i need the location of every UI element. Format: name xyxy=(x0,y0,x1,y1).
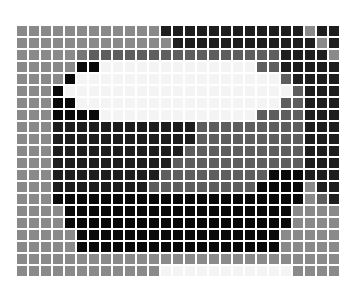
mosaic-cell xyxy=(209,242,219,252)
mosaic-cell xyxy=(29,182,39,192)
mosaic-cell xyxy=(89,134,99,144)
mosaic-cell xyxy=(221,242,231,252)
mosaic-cell xyxy=(65,98,75,108)
mosaic-cell xyxy=(29,98,39,108)
mosaic-cell xyxy=(113,182,123,192)
mosaic-cell xyxy=(209,110,219,120)
mosaic-cell xyxy=(329,170,339,180)
mosaic-cell xyxy=(185,254,195,264)
mosaic-cell xyxy=(305,62,315,72)
mosaic-cell xyxy=(17,62,27,72)
mosaic-cell xyxy=(113,38,123,48)
mosaic-cell xyxy=(281,158,291,168)
mosaic-cell xyxy=(113,230,123,240)
mosaic-cell xyxy=(161,170,171,180)
mosaic-cell xyxy=(233,26,243,36)
mosaic-cell xyxy=(305,74,315,84)
mosaic-cell xyxy=(257,266,267,276)
mosaic-cell xyxy=(293,194,303,204)
mosaic-cell xyxy=(329,62,339,72)
mosaic-cell xyxy=(173,110,183,120)
mosaic-cell xyxy=(89,50,99,60)
mosaic-cell xyxy=(89,170,99,180)
mosaic-cell xyxy=(149,158,159,168)
mosaic-cell xyxy=(41,62,51,72)
mosaic-cell xyxy=(65,110,75,120)
mosaic-cell xyxy=(77,86,87,96)
mosaic-cell xyxy=(257,134,267,144)
mosaic-cell xyxy=(161,50,171,60)
mosaic-cell xyxy=(17,170,27,180)
mosaic-cell xyxy=(137,242,147,252)
mosaic-cell xyxy=(17,134,27,144)
mosaic-cell xyxy=(281,122,291,132)
mosaic-cell xyxy=(269,122,279,132)
mosaic-cell xyxy=(233,86,243,96)
mosaic-cell xyxy=(161,122,171,132)
mosaic-cell xyxy=(221,38,231,48)
mosaic-cell xyxy=(209,38,219,48)
mosaic-cell xyxy=(29,38,39,48)
mosaic-cell xyxy=(89,38,99,48)
mosaic-cell xyxy=(149,170,159,180)
mosaic-cell xyxy=(281,254,291,264)
mosaic-cell xyxy=(101,230,111,240)
mosaic-cell xyxy=(185,206,195,216)
mosaic-cell xyxy=(173,26,183,36)
mosaic-cell xyxy=(125,122,135,132)
pixel-mosaic-grid xyxy=(17,26,339,276)
mosaic-cell xyxy=(245,74,255,84)
mosaic-cell xyxy=(221,62,231,72)
mosaic-cell xyxy=(257,254,267,264)
mosaic-cell xyxy=(173,134,183,144)
mosaic-cell xyxy=(53,62,63,72)
mosaic-cell xyxy=(257,50,267,60)
mosaic-cell xyxy=(161,134,171,144)
mosaic-cell xyxy=(209,98,219,108)
mosaic-cell xyxy=(137,98,147,108)
mosaic-cell xyxy=(89,122,99,132)
mosaic-cell xyxy=(53,230,63,240)
mosaic-cell xyxy=(53,38,63,48)
mosaic-cell xyxy=(29,50,39,60)
mosaic-cell xyxy=(221,134,231,144)
mosaic-cell xyxy=(65,146,75,156)
mosaic-cell xyxy=(137,62,147,72)
mosaic-cell xyxy=(209,158,219,168)
mosaic-cell xyxy=(293,254,303,264)
mosaic-cell xyxy=(221,230,231,240)
mosaic-cell xyxy=(137,230,147,240)
mosaic-cell xyxy=(209,218,219,228)
mosaic-cell xyxy=(233,218,243,228)
mosaic-cell xyxy=(233,98,243,108)
mosaic-cell xyxy=(89,74,99,84)
mosaic-cell xyxy=(125,98,135,108)
mosaic-cell xyxy=(53,98,63,108)
mosaic-cell xyxy=(17,230,27,240)
mosaic-cell xyxy=(41,254,51,264)
mosaic-cell xyxy=(101,194,111,204)
mosaic-cell xyxy=(17,74,27,84)
mosaic-cell xyxy=(185,74,195,84)
mosaic-cell xyxy=(317,74,327,84)
mosaic-cell xyxy=(29,62,39,72)
mosaic-cell xyxy=(29,254,39,264)
mosaic-cell xyxy=(209,170,219,180)
mosaic-cell xyxy=(149,218,159,228)
mosaic-cell xyxy=(65,38,75,48)
mosaic-cell xyxy=(113,86,123,96)
mosaic-cell xyxy=(185,218,195,228)
mosaic-cell xyxy=(185,266,195,276)
mosaic-cell xyxy=(161,242,171,252)
mosaic-cell xyxy=(257,86,267,96)
mosaic-cell xyxy=(209,230,219,240)
mosaic-cell xyxy=(161,194,171,204)
mosaic-cell xyxy=(65,170,75,180)
mosaic-cell xyxy=(41,98,51,108)
mosaic-cell xyxy=(149,122,159,132)
mosaic-cell xyxy=(305,206,315,216)
mosaic-cell xyxy=(221,254,231,264)
mosaic-cell xyxy=(65,134,75,144)
mosaic-cell xyxy=(101,122,111,132)
mosaic-cell xyxy=(221,182,231,192)
